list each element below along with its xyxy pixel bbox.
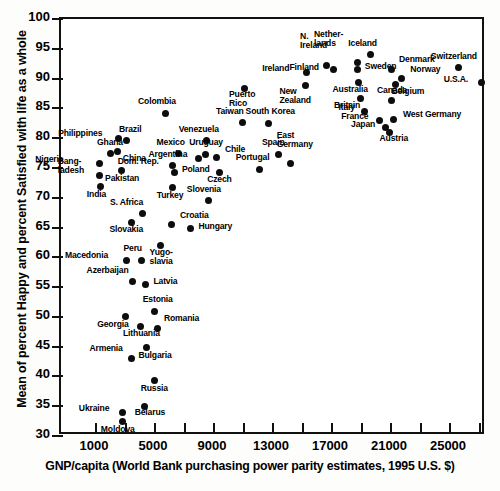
x-tick xyxy=(243,423,245,432)
data-point-label: Pakistan xyxy=(105,174,139,183)
y-tick xyxy=(52,78,63,80)
data-point xyxy=(195,155,202,162)
data-point xyxy=(275,151,282,158)
y-tick xyxy=(52,286,63,288)
data-point-label: Belarus xyxy=(135,408,165,417)
data-point-label: Denmark xyxy=(399,55,435,64)
y-tick xyxy=(52,346,63,348)
y-tick-label: 30 xyxy=(16,426,50,441)
data-point xyxy=(187,225,194,232)
y-tick-label: 60 xyxy=(16,247,50,262)
plot-area: NigeriaBang- ladeshIndiaGhanaPhilippines… xyxy=(59,17,484,434)
x-tick xyxy=(154,423,156,432)
data-point-label: Iceland xyxy=(348,39,377,48)
data-point xyxy=(114,148,121,155)
data-point-label: Puerto Rico xyxy=(229,90,255,108)
data-point xyxy=(154,325,161,332)
data-point xyxy=(169,162,176,169)
data-point xyxy=(123,137,130,144)
data-point xyxy=(138,257,145,264)
data-point-label: New Zealand xyxy=(279,87,310,105)
data-point xyxy=(323,62,330,69)
data-point-label: Austria xyxy=(380,134,409,143)
data-point xyxy=(239,119,246,126)
data-point-label: Romania xyxy=(164,314,199,323)
data-point xyxy=(142,281,149,288)
data-point-label: Japan xyxy=(351,120,375,129)
data-point-label: India xyxy=(87,190,106,199)
data-point xyxy=(129,278,136,285)
data-point-label: Croatia xyxy=(180,211,209,220)
data-point-label: Taiwan xyxy=(216,107,244,116)
data-point xyxy=(115,135,122,142)
data-point xyxy=(287,160,294,167)
data-point-label: Armenia xyxy=(89,344,122,353)
y-tick xyxy=(52,316,63,318)
data-point-label: S. Africa xyxy=(110,198,143,207)
data-point-label: Bang- ladesh xyxy=(58,157,84,175)
data-point xyxy=(168,221,175,228)
data-point-label: Estonia xyxy=(143,295,173,304)
data-point-label: Georgia xyxy=(97,320,128,329)
data-point-label: Canada xyxy=(377,86,407,95)
data-point-label: Poland xyxy=(182,165,210,174)
data-point xyxy=(171,169,178,176)
data-point-label: Ukraine xyxy=(79,404,109,413)
y-tick xyxy=(52,18,63,20)
data-point xyxy=(213,154,220,161)
y-tick xyxy=(52,227,63,229)
data-point-label: Slovenia xyxy=(187,185,221,194)
x-tick-label: 25000 xyxy=(413,438,483,453)
y-tick xyxy=(52,48,63,50)
data-point xyxy=(202,151,209,158)
data-point-label: Brazil xyxy=(119,125,142,134)
y-tick-label: 45 xyxy=(16,337,50,352)
x-tick xyxy=(213,423,215,432)
data-point-label: Australia xyxy=(333,85,368,94)
data-point-label: Colombia xyxy=(138,97,176,106)
data-point-label: Macedonia xyxy=(65,251,108,260)
x-tick xyxy=(361,423,363,432)
y-tick-label: 40 xyxy=(16,366,50,381)
data-point xyxy=(107,150,114,157)
data-point-label: Philippines xyxy=(58,129,102,138)
data-point-label: Turkey xyxy=(157,191,184,200)
data-point-label: Slovakia xyxy=(109,225,143,234)
x-tick xyxy=(184,423,186,432)
y-tick xyxy=(52,256,63,258)
y-tick-label: 65 xyxy=(16,218,50,233)
x-tick xyxy=(302,423,304,432)
data-point-label: Finland xyxy=(289,63,319,72)
data-point-label: Bulgaria xyxy=(138,351,171,360)
data-point xyxy=(390,116,397,123)
data-point xyxy=(455,64,462,71)
y-tick xyxy=(52,107,63,109)
data-point xyxy=(256,166,263,173)
data-point-label: Moldova xyxy=(101,425,135,434)
data-point xyxy=(376,117,383,124)
data-point-label: West Germany xyxy=(403,110,461,119)
y-tick-label: 100 xyxy=(16,9,50,24)
x-tick xyxy=(420,423,422,432)
y-tick-label: 85 xyxy=(16,98,50,113)
data-point xyxy=(162,110,169,117)
y-tick-label: 75 xyxy=(16,158,50,173)
data-point xyxy=(139,210,146,217)
y-tick xyxy=(52,197,63,199)
data-point-label: Switzerland xyxy=(431,52,477,61)
data-point xyxy=(96,160,103,167)
data-point xyxy=(478,79,485,86)
data-point-label: Latvia xyxy=(153,277,177,286)
data-point-label: Ireland xyxy=(262,64,289,73)
y-tick-label: 70 xyxy=(16,188,50,203)
data-point xyxy=(367,51,374,58)
x-tick xyxy=(272,423,274,432)
data-point-label: Mexico xyxy=(157,138,185,147)
data-point xyxy=(119,409,126,416)
data-point-label: Uruguay xyxy=(189,138,223,147)
data-point xyxy=(96,172,103,179)
scatter-plot-figure: Mean of percent Happy and percent Satisf… xyxy=(0,0,500,491)
data-point-label: Nether- lands xyxy=(314,30,343,48)
data-point-label: Yugo- slavia xyxy=(150,248,173,266)
y-tick xyxy=(52,435,63,437)
